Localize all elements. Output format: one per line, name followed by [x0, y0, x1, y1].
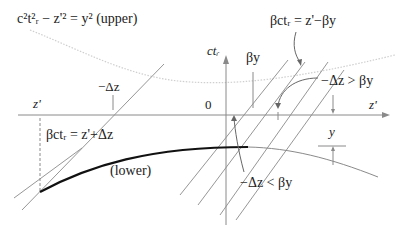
origin-label: 0 [205, 98, 212, 111]
beta-y-label: βy [246, 51, 260, 65]
z-prime-left-label: z' [33, 97, 41, 110]
lower-label: (lower) [110, 164, 151, 178]
y-label: y [329, 125, 335, 138]
y-arrow-up [331, 146, 335, 151]
dz-greater-label: −Δz > βy [321, 74, 373, 88]
dz-less-label: −Δz < βy [240, 176, 292, 190]
diagram-canvas [0, 0, 395, 231]
left-diagonal-2 [14, 148, 82, 198]
ct-axis-label: ctᵣ [207, 44, 220, 57]
lower-equation-label: βctᵣ = z'+Δz [46, 128, 113, 142]
lower-hyperbola-thin [248, 147, 378, 177]
beta-line-equation-label: βctᵣ = z'−βy [270, 14, 336, 28]
z-axis-arrowhead [382, 112, 390, 118]
upper-equation-label: c²t²ᵣ − z'² = y² (upper) [17, 12, 137, 26]
y-arrow-down [331, 109, 335, 114]
z-prime-right-label: z' [369, 98, 377, 111]
dz-greater-pointer [278, 78, 318, 106]
minus-dz-label: −Δz [98, 80, 119, 93]
diagonal-4 [236, 70, 344, 220]
ct-axis-arrowhead [223, 55, 229, 64]
beta-line-pointer [294, 32, 300, 62]
